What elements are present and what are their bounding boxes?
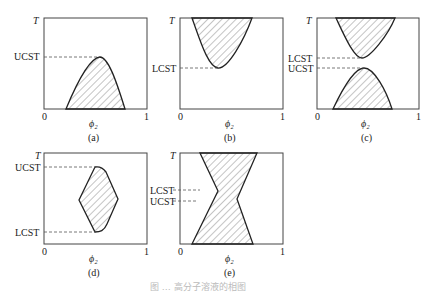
panel-label: (d) [88, 267, 100, 279]
lcst-label: LCST [150, 185, 174, 196]
panel-label: (a) [88, 132, 99, 144]
ucst-label: UCST [14, 51, 40, 62]
x-tick-0: 0 [42, 246, 47, 257]
phase-diagram-figure: T UCST 0 1 ϕ₂ (a) T LCST 0 1 ϕ₂ (b) T LC… [0, 0, 431, 294]
y-axis-label: T [306, 15, 313, 26]
x-tick-1: 1 [144, 111, 149, 122]
x-tick-0: 0 [42, 111, 47, 122]
x-axis-label: ϕ₂ [225, 118, 234, 129]
y-axis-label: T [35, 150, 42, 161]
panel-label: (e) [224, 267, 235, 279]
lcst-label: LCST [152, 63, 176, 74]
x-axis-label: ϕ₂ [89, 118, 98, 129]
x-tick-1: 1 [280, 111, 285, 122]
y-axis-label: T [169, 15, 176, 26]
panel-label: (c) [361, 132, 372, 144]
x-axis-label: ϕ₂ [225, 253, 234, 264]
panel-b: T LCST 0 1 ϕ₂ (b) [152, 15, 285, 144]
panel-a: T UCST 0 1 ϕ₂ (a) [14, 15, 149, 144]
figure-caption: 图 … 高分子溶液的相图 [150, 281, 246, 292]
ucst-label: UCST [150, 196, 176, 207]
y-axis-label: T [170, 150, 177, 161]
lcst-label: LCST [15, 227, 39, 238]
ucst-label: UCST [288, 63, 314, 74]
panel-e: T LCST UCST 0 1 ϕ₂ (e) [150, 150, 285, 279]
x-axis-label: ϕ₂ [89, 253, 98, 264]
x-tick-1: 1 [416, 111, 421, 122]
x-tick-0: 0 [178, 246, 183, 257]
panel-c: T LCST UCST 0 1 ϕ₂ (c) [288, 15, 421, 144]
y-axis-label: T [33, 15, 40, 26]
x-tick-0: 0 [178, 111, 183, 122]
x-tick-1: 1 [280, 246, 285, 257]
x-tick-1: 1 [144, 246, 149, 257]
ucst-label: UCST [15, 162, 41, 173]
x-axis-label: ϕ₂ [361, 118, 370, 129]
panel-label: (b) [224, 132, 236, 144]
panel-d: T UCST LCST 0 1 ϕ₂ (d) [15, 150, 149, 279]
x-tick-0: 0 [315, 111, 320, 122]
